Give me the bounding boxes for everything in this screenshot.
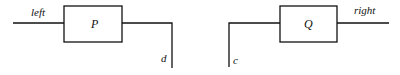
process-diagram: left P d right Q c (0, 0, 400, 75)
process-p-group: left P d (13, 6, 172, 68)
d-label: d (161, 52, 167, 64)
right-label: right (354, 4, 376, 16)
left-label: left (31, 6, 46, 18)
process-q-group: right Q c (229, 4, 389, 67)
c-label: c (233, 54, 238, 66)
q-label: Q (304, 17, 313, 31)
p-label: P (90, 17, 99, 31)
